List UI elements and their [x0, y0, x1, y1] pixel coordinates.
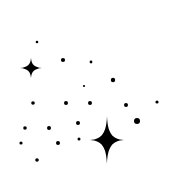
starfield-illustration: [0, 0, 174, 185]
dot-06: [31, 101, 35, 105]
dot-13: [47, 126, 51, 130]
dot-02: [61, 58, 65, 62]
dot-01: [36, 41, 39, 44]
dot-11: [134, 118, 140, 124]
dot-14: [76, 121, 80, 125]
dot-04: [111, 78, 115, 82]
dot-03: [90, 61, 93, 64]
starfield-canvas: Starfield Black-and-white night sky illu…: [0, 0, 174, 185]
dot-16: [19, 141, 22, 144]
dot-18: [35, 158, 39, 162]
dot-05: [83, 85, 85, 87]
dot-07: [64, 101, 68, 105]
dot-08: [88, 101, 92, 105]
background-rect: [0, 0, 174, 185]
dot-17: [78, 138, 81, 141]
dot-09: [124, 103, 128, 107]
dot-15: [56, 141, 60, 145]
dot-10: [155, 100, 158, 103]
dot-12: [23, 126, 27, 130]
